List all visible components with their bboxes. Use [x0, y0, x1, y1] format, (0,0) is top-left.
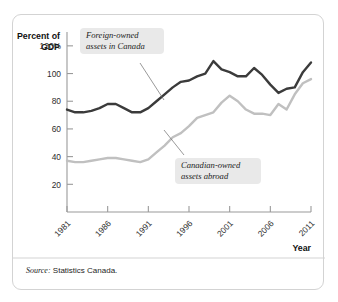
series-line-foreign-owned-assets-in-canada [67, 61, 311, 112]
source-note: Source: Statistics Canada. [26, 266, 117, 275]
annotation-foreign-owned-line2: assets in Canada [86, 41, 145, 51]
annotation-canadian-owned-line1: Canadian-owned [181, 160, 241, 170]
y-tick-label: 20 [52, 180, 62, 190]
axes [67, 32, 311, 212]
y-axis-ticks: 120%10080604020 [40, 41, 73, 189]
x-tick-label: 2001 [215, 218, 235, 238]
chart-canvas: Percent of GDP 120%10080604020 198119861… [12, 14, 326, 292]
annotation-foreign-owned: Foreign-owned assets in Canada [80, 28, 164, 100]
annotation-canadian-owned: Canadian-owned assets abroad [164, 130, 261, 184]
y-tick-label: 100 [47, 69, 61, 79]
source-value: Statistics Canada. [53, 266, 117, 275]
x-tick-label: 1986 [93, 218, 113, 238]
annotation-foreign-owned-leader [140, 63, 164, 100]
series-group [67, 61, 311, 162]
x-tick-label: 2011 [297, 218, 317, 238]
chart-figure: Percent of GDP 120%10080604020 198119861… [0, 0, 338, 302]
x-tick-label: 1996 [174, 218, 194, 238]
y-tick-label: 40 [52, 152, 62, 162]
y-axis-title-line1: Percent of [17, 31, 60, 41]
y-tick-label: 120% [40, 41, 62, 51]
x-tick-label: 1991 [133, 218, 153, 238]
y-tick-label: 60 [52, 124, 62, 134]
series-line-canadian-owned-assets-abroad [67, 79, 311, 162]
x-tick-label: 1981 [52, 218, 72, 238]
x-tick-label: 2006 [255, 218, 275, 238]
source-label: Source: [26, 266, 51, 275]
y-tick-label: 80 [52, 96, 62, 106]
annotation-canadian-owned-line2: assets abroad [181, 171, 229, 181]
annotation-foreign-owned-line1: Foreign-owned [85, 30, 139, 40]
x-axis-title: Year [292, 243, 311, 253]
x-axis-ticks: 1981198619911996200120062011 [52, 206, 316, 239]
